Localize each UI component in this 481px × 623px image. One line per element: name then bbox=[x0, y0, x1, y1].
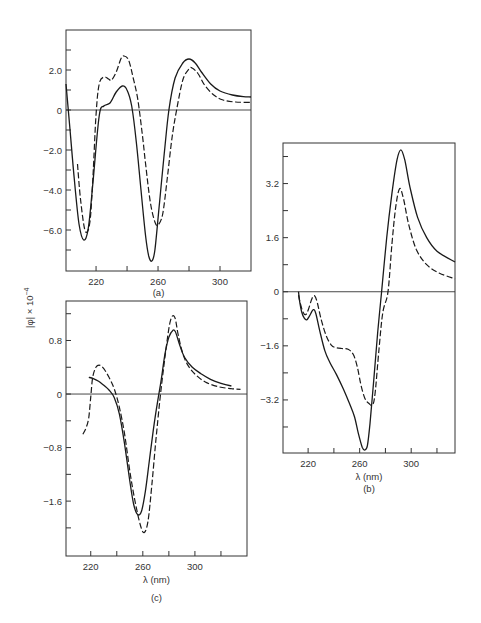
x-tick-label: 260 bbox=[135, 561, 151, 572]
y-tick-label: 1.6 bbox=[266, 232, 279, 243]
x-tick-label: 260 bbox=[352, 458, 368, 469]
x-tick-label: 220 bbox=[88, 276, 104, 287]
y-axis-label: |φ| × 10−4 bbox=[23, 287, 35, 328]
x-tick-label: 260 bbox=[150, 276, 166, 287]
panel-caption: (a) bbox=[153, 287, 165, 298]
dashed-curve bbox=[299, 188, 456, 405]
solid-curve bbox=[66, 59, 251, 261]
y-tick-label: −3.2 bbox=[260, 394, 279, 405]
y-tick-label: 0 bbox=[274, 286, 279, 297]
x-tick-label: 220 bbox=[300, 458, 316, 469]
plot-frame bbox=[283, 143, 455, 453]
y-tick-label: 0.8 bbox=[49, 335, 62, 346]
y-tick-label: 0 bbox=[57, 105, 62, 116]
x-axis-label: λ (nm) bbox=[356, 471, 383, 482]
y-tick-label: 0 bbox=[57, 389, 62, 400]
cd-spectra-figure: 2.00−2.0−4.0−6.0220260300(a) 3.21.60−1.6… bbox=[0, 0, 481, 623]
y-tick-label: −1.6 bbox=[260, 340, 279, 351]
y-tick-label: −4.0 bbox=[43, 185, 62, 196]
y-tick-label: −2.0 bbox=[43, 145, 62, 156]
y-tick-label: −6.0 bbox=[43, 225, 62, 236]
y-tick-label: −1.6 bbox=[43, 496, 62, 507]
dashed-curve bbox=[78, 56, 252, 232]
x-tick-label: 220 bbox=[83, 561, 99, 572]
panel-a: 2.00−2.0−4.0−6.0220260300(a) bbox=[43, 30, 251, 298]
dashed-curve bbox=[83, 316, 241, 533]
y-tick-label: −0.8 bbox=[43, 442, 62, 453]
panel-b: 3.21.60−1.6−3.2220260300λ (nm)(b) bbox=[260, 143, 455, 494]
y-tick-label: 2.0 bbox=[49, 65, 62, 76]
panel-caption: (b) bbox=[363, 483, 375, 494]
panel-c: 0.80−0.8−1.6220260300λ (nm)(c) bbox=[43, 301, 247, 603]
x-tick-label: 300 bbox=[212, 276, 228, 287]
solid-curve bbox=[89, 330, 232, 515]
y-tick-label: 3.2 bbox=[266, 178, 279, 189]
plot-frame bbox=[66, 30, 251, 271]
x-tick-label: 300 bbox=[403, 458, 419, 469]
solid-curve bbox=[299, 150, 456, 450]
x-tick-label: 300 bbox=[187, 561, 203, 572]
panel-caption: (c) bbox=[151, 592, 162, 603]
x-axis-label: λ (nm) bbox=[143, 574, 170, 585]
